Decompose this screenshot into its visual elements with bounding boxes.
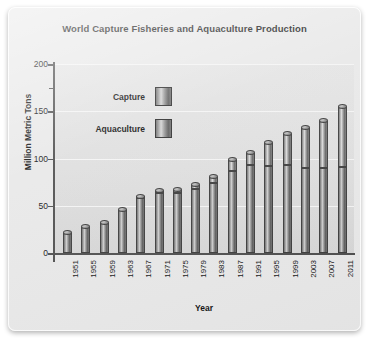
- bar-segment-capture: [301, 168, 310, 253]
- bar-column: [136, 197, 145, 253]
- bar-column: [173, 190, 182, 253]
- x-axis-tick-label: 1995: [272, 257, 281, 297]
- bar-segment-capture: [338, 167, 347, 253]
- gridline: [54, 111, 354, 112]
- x-axis-tick-label: 2007: [327, 257, 336, 297]
- x-axis-title: Year: [54, 303, 354, 313]
- bar-column: [319, 121, 328, 253]
- bar-column: [301, 128, 310, 253]
- x-axis-tick-label: 2011: [346, 257, 355, 297]
- bar-segment-capture: [319, 168, 328, 253]
- bar-segment-capture: [228, 171, 237, 253]
- bar-segment-capture: [155, 193, 164, 253]
- y-axis-tick-label: 50: [14, 201, 48, 211]
- y-axis-tick: [48, 206, 53, 208]
- chart-screenshot: World Capture Fisheries and Aquaculture …: [0, 0, 371, 343]
- bar-segment-aquaculture: [319, 121, 328, 168]
- bar-segment-capture: [63, 233, 72, 253]
- bar-column: [81, 227, 90, 253]
- y-axis-tick: [48, 159, 53, 161]
- bar-cap: [191, 182, 200, 187]
- bar-cap: [319, 118, 328, 123]
- bar-column: [100, 223, 109, 253]
- y-axis-tick: [48, 111, 53, 113]
- bar-cap: [338, 104, 347, 109]
- bar-column: [283, 134, 292, 253]
- bar-segment-capture: [246, 165, 255, 253]
- legend-swatch: [155, 119, 172, 138]
- x-axis-tick-label: 2003: [309, 257, 318, 297]
- bar-column: [264, 143, 273, 253]
- y-axis-tick: [48, 253, 53, 255]
- bar-segment-aquaculture: [338, 107, 347, 167]
- x-axis-tick-label: 1967: [144, 257, 153, 297]
- bar-cap: [283, 131, 292, 136]
- bar-column: [209, 177, 218, 253]
- bar-column: [191, 185, 200, 253]
- bar-cap: [100, 220, 109, 225]
- bar-column: [246, 153, 255, 253]
- x-axis-tick-label: 1971: [163, 257, 172, 297]
- chart-card: World Capture Fisheries and Aquaculture …: [8, 7, 361, 331]
- y-axis-tick: [48, 64, 53, 66]
- bar-segment-aquaculture: [264, 143, 273, 166]
- bar-column: [63, 233, 72, 253]
- bar-column: [118, 210, 127, 253]
- x-axis-tick-label: 1951: [71, 257, 80, 297]
- bar-segment-capture: [264, 166, 273, 253]
- x-axis-tick-label: 1959: [108, 257, 117, 297]
- gridline: [54, 64, 354, 65]
- x-axis-tick-label: 1975: [181, 257, 190, 297]
- y-axis-tick-label: 0: [14, 248, 48, 258]
- x-axis-tick-label: 1963: [126, 257, 135, 297]
- bar-segment-capture: [136, 198, 145, 253]
- bar-segment-capture: [118, 210, 127, 253]
- chart-title: World Capture Fisheries and Aquaculture …: [8, 23, 361, 34]
- x-axis-tick-label: 1983: [217, 257, 226, 297]
- bar-cap: [81, 224, 90, 229]
- bar-segment-aquaculture: [301, 128, 310, 168]
- y-axis-minor-tick: [49, 88, 53, 90]
- bar-column: [338, 107, 347, 253]
- bar-segment-capture: [173, 193, 182, 253]
- x-axis-line: [53, 253, 355, 255]
- x-axis-tick-label: 1999: [291, 257, 300, 297]
- bar-segment-capture: [100, 223, 109, 253]
- bar-segment-capture: [81, 227, 90, 253]
- bar-cap: [155, 188, 164, 193]
- x-axis-tick-label: 1955: [89, 257, 98, 297]
- bar-column: [155, 191, 164, 253]
- legend-label: Capture: [55, 92, 145, 102]
- x-axis-tick-label: 1991: [254, 257, 263, 297]
- x-axis-tick-label: 1979: [199, 257, 208, 297]
- bar-segment-capture: [283, 165, 292, 253]
- bar-segment-capture: [209, 183, 218, 253]
- bar-column: [228, 160, 237, 253]
- x-axis-tick-label: 1987: [236, 257, 245, 297]
- legend-swatch: [155, 87, 172, 106]
- bar-segment-aquaculture: [283, 134, 292, 165]
- bar-cap: [173, 187, 182, 192]
- y-axis-tick-label: 200: [14, 59, 48, 69]
- bar-cap: [246, 150, 255, 155]
- y-axis-title: Million Metric Tons: [23, 82, 33, 182]
- legend-label: Aquaculture: [55, 124, 145, 134]
- bar-segment-capture: [191, 189, 200, 253]
